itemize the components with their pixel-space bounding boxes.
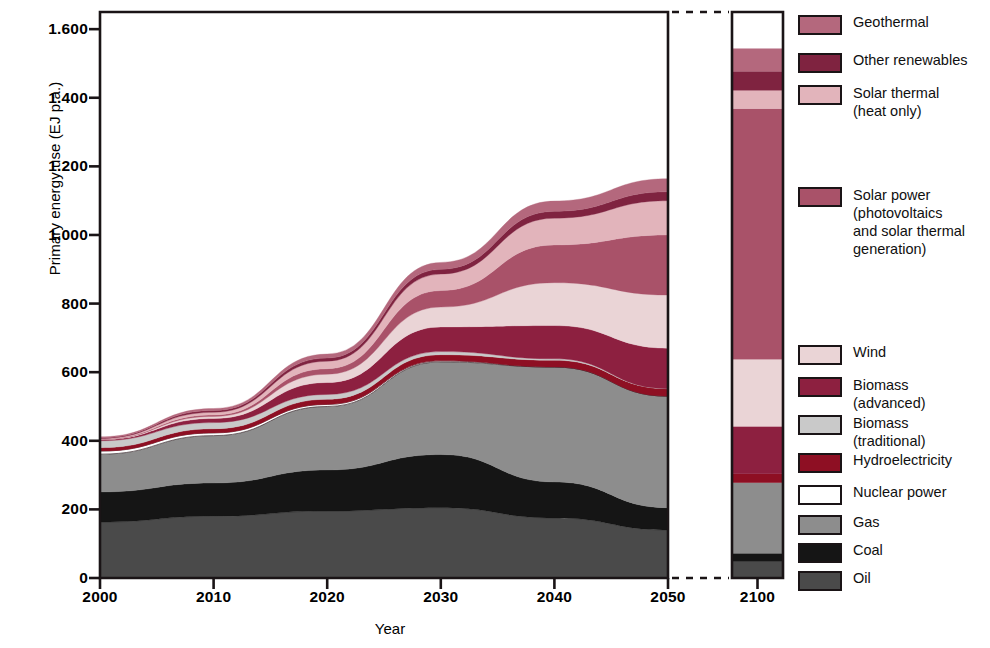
legend-item[interactable]: Oil [798,570,871,591]
legend-item[interactable]: Hydroelectricity [798,452,952,473]
legend-swatch-icon [798,53,842,73]
legend-label: Solar thermal (heat only) [853,84,939,120]
legend-label: Biomass (traditional) [853,414,926,450]
chart-figure: Primary energy use (EJ p.a.) 02004006008… [0,0,990,648]
inset-bar-segment [732,483,783,554]
legend-label: Gas [853,514,880,532]
inset-bar-segment [732,90,783,109]
legend-item[interactable]: Biomass (advanced) [798,376,926,412]
legend-label: Wind [853,344,886,362]
legend-swatch-icon [798,515,842,535]
legend-swatch-icon [798,187,842,207]
legend-item[interactable]: Wind [798,344,886,365]
inset-bar-segment [732,49,783,72]
main-panel-areas [100,179,668,578]
legend-item[interactable]: Nuclear power [798,484,947,505]
legend-swatch-icon [798,453,842,473]
legend-label: Other renewables [853,52,967,70]
inset-panel-bar [732,49,783,578]
legend-swatch-icon [798,345,842,365]
legend-item[interactable]: Other renewables [798,52,967,73]
legend-label: Coal [853,542,883,560]
inset-bar-segment [732,426,783,473]
legend-label: Geothermal [853,14,929,32]
legend-swatch-icon [798,415,842,435]
legend-swatch-icon [798,15,842,35]
legend-item[interactable]: Solar thermal (heat only) [798,84,939,120]
legend-item[interactable]: Coal [798,542,883,563]
inset-bar-segment [732,109,783,359]
legend-swatch-icon [798,543,842,563]
legend-label: Nuclear power [853,484,947,502]
legend-label: Oil [853,570,871,588]
legend-item[interactable]: Biomass (traditional) [798,414,926,450]
legend-swatch-icon [798,571,842,591]
legend-label: Solar power (photovoltaics and solar the… [853,186,965,258]
inset-bar-segment [732,474,783,483]
legend-item[interactable]: Solar power (photovoltaics and solar the… [798,186,965,258]
legend-swatch-icon [798,377,842,397]
legend-label: Hydroelectricity [853,452,952,470]
legend-item[interactable]: Gas [798,514,880,535]
legend-label: Biomass (advanced) [853,376,926,412]
legend-swatch-icon [798,485,842,505]
legend-swatch-icon [798,85,842,105]
legend-item[interactable]: Geothermal [798,14,929,35]
inset-bar-segment [732,553,783,561]
chart-legend: GeothermalOther renewablesSolar thermal … [798,0,990,600]
inset-bar-segment [732,359,783,426]
inset-bar-segment [732,562,783,578]
inset-bar-segment [732,71,783,90]
